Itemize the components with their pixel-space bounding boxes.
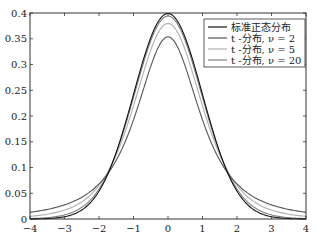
- y-tick-label: 0.05: [5, 188, 27, 199]
- legend-label-0: 标准正态分布: [231, 21, 291, 33]
- x-tick-label: −3: [57, 223, 72, 234]
- legend: 标准正态分布t -分布, ν = 2t -分布, ν = 5t -分布, ν =…: [204, 19, 305, 67]
- y-tick-label: 0.1: [11, 162, 27, 173]
- x-tick-label: 2: [234, 223, 240, 234]
- x-tick-label: −2: [92, 223, 107, 234]
- chart: −4−3−2−10123400.050.10.150.20.250.30.350…: [0, 0, 317, 241]
- y-tick-label: 0: [21, 214, 27, 225]
- legend-label-2: t -分布, ν = 5: [231, 44, 295, 55]
- x-tick-label: 1: [199, 223, 205, 234]
- y-tick-label: 0.4: [11, 8, 27, 19]
- legend-label-1: t -分布, ν = 2: [231, 33, 295, 44]
- y-tick-label: 0.3: [11, 59, 27, 70]
- x-tick-label: 0: [165, 223, 171, 234]
- x-tick-label: 3: [268, 223, 274, 234]
- y-tick-label: 0.15: [5, 136, 27, 147]
- y-tick-label: 0.2: [11, 111, 27, 122]
- y-tick-label: 0.35: [5, 33, 27, 44]
- x-tick-label: −1: [126, 223, 141, 234]
- x-tick-label: −4: [23, 223, 38, 234]
- legend-label-3: t -分布, ν = 20: [231, 55, 301, 66]
- x-tick-label: 4: [303, 223, 309, 234]
- y-tick-label: 0.25: [5, 85, 27, 96]
